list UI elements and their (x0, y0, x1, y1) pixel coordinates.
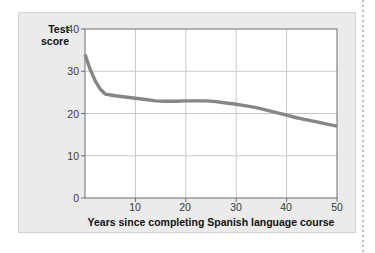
y-tick-label-40: 40 (67, 23, 79, 35)
page-dotted-rule (362, 0, 364, 253)
x-tick-label-20: 20 (179, 201, 191, 213)
y-tick-label-10: 10 (67, 150, 79, 162)
y-axis-ticks (81, 29, 85, 198)
x-axis-title: Years since completing Spanish language … (88, 216, 335, 228)
y-axis-title-line-1: Test (48, 23, 69, 35)
y-tick-label-0: 0 (73, 192, 79, 204)
chart-panel: 40 30 20 10 0 10 20 30 40 50 Test score … (18, 12, 356, 233)
figure-root: 40 30 20 10 0 10 20 30 40 50 Test score … (0, 0, 375, 253)
x-tick-label-10: 10 (129, 201, 141, 213)
x-tick-label-30: 30 (230, 201, 242, 213)
x-tick-label-50: 50 (331, 201, 343, 213)
y-tick-label-30: 30 (67, 65, 79, 77)
x-tick-label-40: 40 (280, 201, 292, 213)
y-tick-label-20: 20 (67, 108, 79, 120)
line-chart: 40 30 20 10 0 10 20 30 40 50 Test score … (19, 13, 357, 234)
y-axis-title-line-2: score (41, 35, 69, 47)
